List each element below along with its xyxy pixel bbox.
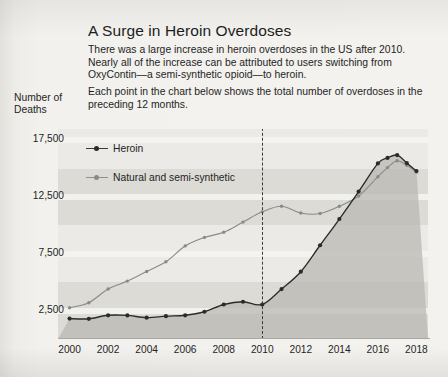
data-point: [386, 166, 389, 169]
data-point: [202, 310, 206, 314]
data-point: [145, 270, 148, 273]
data-point: [299, 270, 303, 274]
data-point: [338, 204, 341, 207]
legend-item-heroin[interactable]: Heroin: [86, 142, 143, 154]
x-axis-baseline: [58, 338, 430, 339]
data-point: [222, 231, 225, 234]
data-point: [405, 161, 409, 165]
data-point: [87, 301, 90, 304]
data-point: [357, 189, 361, 193]
data-point: [376, 175, 379, 178]
y-axis-title: Number of Deaths: [14, 92, 84, 116]
y-tick-label: 7,500: [18, 247, 64, 258]
data-point: [337, 217, 341, 221]
vline-2010: [262, 129, 263, 339]
data-point: [414, 169, 418, 173]
legend-item-natural[interactable]: Natural and semi-synthetic: [86, 171, 235, 183]
x-tick-label: 2012: [281, 344, 321, 355]
x-tick-label: 2018: [396, 344, 436, 355]
plot-area: [58, 129, 428, 339]
data-point: [299, 211, 302, 214]
data-point: [68, 306, 71, 309]
x-tick-label: 2014: [319, 344, 359, 355]
legend-label-natural: Natural and semi-synthetic: [113, 172, 235, 183]
data-point: [279, 287, 283, 291]
x-tick-label: 2016: [358, 344, 398, 355]
data-point: [125, 313, 129, 317]
data-point: [280, 204, 283, 207]
data-point: [164, 260, 167, 263]
x-tick-label: 2002: [88, 344, 128, 355]
data-point: [106, 287, 109, 290]
data-point: [385, 156, 389, 160]
x-tick-label: 2000: [50, 344, 90, 355]
legend-swatch-heroin: [86, 144, 108, 152]
data-point: [357, 194, 360, 197]
data-point: [106, 313, 110, 317]
data-point: [126, 279, 129, 282]
data-point: [395, 153, 399, 157]
poster-page: A Surge in Heroin Overdoses There was a …: [0, 0, 448, 377]
intro-paragraph-1: There was a large increase in heroin ove…: [88, 44, 424, 82]
data-point: [183, 313, 187, 317]
y-tick-label: 2,500: [18, 304, 64, 315]
x-tick-label: 2006: [165, 344, 205, 355]
data-point: [67, 316, 71, 320]
y-tick-label: 17,500: [18, 133, 64, 144]
page-title: A Surge in Heroin Overdoses: [88, 22, 418, 40]
x-tick-label: 2008: [204, 344, 244, 355]
data-point: [395, 159, 398, 162]
data-point: [164, 314, 168, 318]
series-lines: [58, 129, 428, 339]
data-point: [87, 317, 91, 321]
data-point: [318, 243, 322, 247]
data-point: [183, 244, 186, 247]
data-point: [376, 161, 380, 165]
legend-label-heroin: Heroin: [113, 143, 143, 154]
data-point: [222, 302, 226, 306]
data-point: [241, 300, 245, 304]
x-tick-label: 2004: [127, 344, 167, 355]
data-point: [241, 220, 244, 223]
data-point: [203, 236, 206, 239]
data-point: [145, 316, 149, 320]
x-tick-label: 2010: [242, 344, 282, 355]
data-point: [318, 212, 321, 215]
legend-swatch-natural: [86, 173, 108, 181]
intro-paragraph-2: Each point in the chart below shows the …: [88, 86, 424, 111]
overdose-line-chart: 2,5007,50012,50017,500 20002002200420062…: [0, 129, 448, 344]
y-tick-label: 12,500: [18, 190, 64, 201]
